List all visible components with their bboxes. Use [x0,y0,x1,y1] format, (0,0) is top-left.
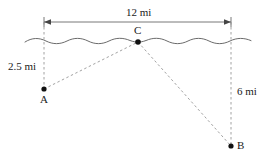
label-depth-2-5mi: 2.5 mi [8,61,36,72]
point-b-marker [228,143,233,148]
label-point-a: A [40,94,48,105]
arrow-right-icon [224,19,231,24]
label-span-12mi: 12 mi [126,7,151,18]
label-depth-6mi: 6 mi [237,86,257,97]
label-point-b: B [237,140,244,151]
segment-c-b [138,42,231,146]
label-point-c: C [134,25,141,36]
geometry-figure: 12 mi 2.5 mi 6 mi C A B [0,0,273,163]
segment-a-c [44,42,138,89]
arrow-left-icon [44,19,51,24]
point-c-marker [135,39,141,45]
point-a-marker [41,86,46,91]
